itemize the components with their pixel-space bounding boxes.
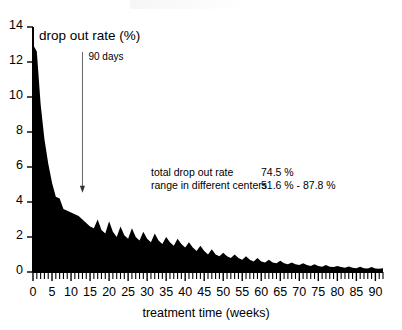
x-axis-tick-label: 35 xyxy=(159,285,173,299)
stat-label-total: total drop out rate xyxy=(151,166,233,178)
series-area-drop-out-rate xyxy=(33,45,383,273)
x-axis-tick-label: 50 xyxy=(216,285,230,299)
x-axis-tick-label: 55 xyxy=(235,285,249,299)
x-axis-tick-label: 40 xyxy=(178,285,192,299)
y-axis-tick-label: 6 xyxy=(16,158,23,172)
y-axis-tick-labels: 02468101214 xyxy=(9,18,23,277)
plot-title: drop out rate (%) xyxy=(39,28,140,43)
x-axis-tick-label: 15 xyxy=(83,285,97,299)
y-axis-tick-label: 2 xyxy=(16,228,23,242)
x-axis-tick-label: 80 xyxy=(330,285,344,299)
y-axis-tick-label: 8 xyxy=(16,123,23,137)
x-axis-tick-label: 10 xyxy=(64,285,78,299)
x-axis-tick-label: 25 xyxy=(121,285,135,299)
x-axis-tick-label: 20 xyxy=(102,285,116,299)
x-axis-tick-label: 5 xyxy=(49,285,56,299)
statistics-block: total drop out rate 74.5 % range in diff… xyxy=(151,166,336,191)
stat-value-range: 51.6 % - 87.8 % xyxy=(261,179,336,191)
x-axis-tick-label: 70 xyxy=(292,285,306,299)
y-axis-tick-label: 14 xyxy=(9,18,23,32)
x-axis-tick-label: 85 xyxy=(349,285,363,299)
scan-artifact xyxy=(130,0,250,9)
ninety-days-arrow-icon xyxy=(80,186,85,193)
chart-figure: 02468101214 0510152025303540455055606570… xyxy=(0,0,402,330)
x-axis-tick-label: 30 xyxy=(140,285,154,299)
x-axis-tick-label: 65 xyxy=(273,285,287,299)
x-axis-title: treatment time (weeks) xyxy=(142,306,269,320)
x-axis-tick-labels: 051015202530354045505560657075808590 xyxy=(30,285,383,299)
x-axis-tick-label: 45 xyxy=(197,285,211,299)
y-axis-tick-label: 4 xyxy=(16,193,23,207)
x-axis-tick-label: 75 xyxy=(311,285,325,299)
ninety-days-label: 90 days xyxy=(88,51,123,62)
x-axis-tick-label: 0 xyxy=(30,285,37,299)
x-axis-tick-label: 60 xyxy=(254,285,268,299)
x-axis-minor-ticks xyxy=(33,272,383,281)
stat-value-total: 74.5 % xyxy=(261,166,294,178)
y-axis-tick-label: 12 xyxy=(9,53,23,67)
drop-out-rate-chart: 02468101214 0510152025303540455055606570… xyxy=(0,0,402,330)
y-axis-tick-label: 10 xyxy=(9,88,23,102)
stat-label-range: range in different centers xyxy=(151,179,267,191)
ninety-days-annotation: 90 days xyxy=(80,51,124,193)
x-axis-tick-label: 90 xyxy=(368,285,382,299)
y-axis-tick-label: 0 xyxy=(16,263,23,277)
